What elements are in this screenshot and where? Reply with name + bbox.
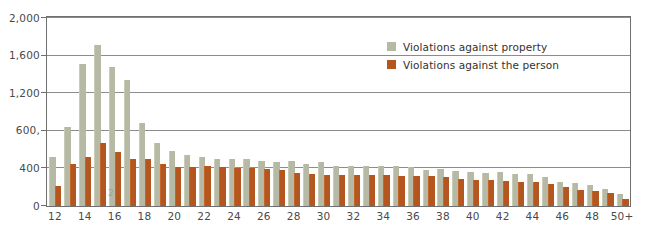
x-axis-label: 42 xyxy=(496,210,510,222)
bar-person xyxy=(548,184,554,205)
bar-group xyxy=(286,18,301,206)
bar-group xyxy=(137,18,152,206)
bar-person xyxy=(533,182,539,206)
bar-person xyxy=(518,182,524,206)
x-axis-label: 26 xyxy=(257,210,271,222)
x-axis-label: 48 xyxy=(585,210,599,222)
bar-person xyxy=(503,181,509,206)
bar-group xyxy=(585,18,600,206)
bar-person xyxy=(279,170,285,206)
bar-group xyxy=(242,18,257,206)
x-axis-label: 16 xyxy=(108,210,122,222)
bar-person xyxy=(189,167,195,206)
page-number-bleed-artifact: 2 xyxy=(108,188,114,198)
y-axis-label: 1,200 xyxy=(9,87,40,99)
bar-group xyxy=(48,18,63,206)
x-axis-label: 20 xyxy=(167,210,181,222)
bar-person xyxy=(428,176,434,205)
bar-person xyxy=(369,175,375,205)
x-axis-label: 28 xyxy=(287,210,301,222)
chart-legend: Violations against propertyViolations ag… xyxy=(387,39,559,75)
bar-person xyxy=(592,191,598,205)
legend-swatch-icon xyxy=(387,42,396,51)
bar-person xyxy=(339,175,345,205)
bar-person xyxy=(100,143,106,206)
bar-group xyxy=(152,18,167,206)
x-axis-label: 24 xyxy=(227,210,241,222)
y-axis: 0400600,1,2001,6002,000 xyxy=(0,16,40,207)
bar-person xyxy=(577,190,583,206)
bar-person xyxy=(607,193,613,205)
x-axis: 1214161820222426283032343638404244464850… xyxy=(48,210,630,230)
bar-person xyxy=(294,173,300,206)
bar-group xyxy=(92,18,107,206)
x-axis-label: 44 xyxy=(526,210,540,222)
x-axis-label: 36 xyxy=(406,210,420,222)
bar-group xyxy=(615,18,630,206)
x-axis-label: 40 xyxy=(466,210,480,222)
bar-person xyxy=(622,199,628,205)
bar-group xyxy=(212,18,227,206)
bar-group xyxy=(361,18,376,206)
bar-group xyxy=(331,18,346,206)
bar-person xyxy=(383,175,389,205)
bar-person xyxy=(309,174,315,205)
x-axis-label: 12 xyxy=(48,210,62,222)
x-axis-label: 46 xyxy=(555,210,569,222)
legend-swatch-icon xyxy=(387,60,396,69)
bar-group xyxy=(346,18,361,206)
bar-chart: 0400600,1,2001,6002,000 1214161820222426… xyxy=(0,0,645,248)
bar-group xyxy=(107,18,122,206)
y-axis-label: 1,600 xyxy=(9,49,40,61)
bar-group xyxy=(227,18,242,206)
x-axis-label: 32 xyxy=(347,210,361,222)
legend-label: Violations against the person xyxy=(403,59,559,71)
bar-person xyxy=(249,168,255,205)
legend-item: Violations against the person xyxy=(387,57,559,72)
bar-person xyxy=(443,177,449,206)
bar-person xyxy=(563,187,569,205)
y-tick-800 xyxy=(41,130,47,131)
legend-item: Violations against property xyxy=(387,39,559,54)
bar-group xyxy=(77,18,92,206)
bar-person xyxy=(234,168,240,206)
y-tick-0 xyxy=(41,205,47,206)
x-axis-label: 38 xyxy=(436,210,450,222)
x-axis-label: 14 xyxy=(78,210,92,222)
bar-group xyxy=(256,18,271,206)
bar-person xyxy=(160,164,166,205)
bar-person xyxy=(70,164,76,205)
bar-person xyxy=(354,175,360,205)
bar-person xyxy=(398,176,404,206)
bar-group xyxy=(271,18,286,206)
bar-group xyxy=(316,18,331,206)
y-tick-1600 xyxy=(41,55,47,56)
bar-group xyxy=(600,18,615,206)
bar-group xyxy=(570,18,585,206)
bar-person xyxy=(130,159,136,206)
bar-person xyxy=(219,167,225,205)
bar-person xyxy=(85,157,91,206)
y-axis-label: 600, xyxy=(16,124,40,136)
bar-person xyxy=(204,166,210,205)
bar-group xyxy=(167,18,182,206)
x-axis-label: 22 xyxy=(197,210,211,222)
y-tick-2000 xyxy=(41,17,47,18)
x-axis-label: 34 xyxy=(376,210,390,222)
x-axis-label: 30 xyxy=(317,210,331,222)
bar-group xyxy=(182,18,197,206)
legend-label: Violations against property xyxy=(403,41,547,53)
y-tick-1200 xyxy=(41,92,47,93)
bar-person xyxy=(458,179,464,205)
y-axis-label: 0 xyxy=(33,200,40,212)
bar-person xyxy=(145,159,151,205)
bar-person xyxy=(324,175,330,206)
bar-person xyxy=(488,180,494,205)
bar-person xyxy=(473,180,479,206)
bar-person xyxy=(55,186,61,205)
bar-group xyxy=(197,18,212,206)
bar-person xyxy=(264,169,270,205)
y-axis-label: 2,000 xyxy=(9,12,40,24)
bar-person xyxy=(413,176,419,205)
bar-group xyxy=(301,18,316,206)
